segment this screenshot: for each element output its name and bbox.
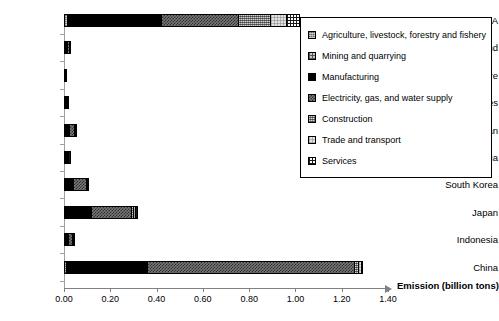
bar-segment-services <box>135 206 138 219</box>
x-tick <box>110 288 111 292</box>
x-tick-label: 0.00 <box>44 294 84 304</box>
legend: Agriculture, livestock, forestry and fis… <box>300 17 492 178</box>
x-tick-label: 0.60 <box>183 294 223 304</box>
x-tick-label: 0.80 <box>229 294 269 304</box>
x-tick-label: 1.40 <box>368 294 408 304</box>
legend-item-construction[interactable]: Construction <box>308 112 373 126</box>
x-tick-label: 1.00 <box>275 294 315 304</box>
bar-segment-manufacturing <box>68 14 162 27</box>
legend-label: Trade and transport <box>322 135 401 145</box>
bar-segment-electricity <box>65 69 67 82</box>
legend-label: Electricity, gas, and water supply <box>322 93 452 103</box>
legend-swatch-mining-icon <box>308 52 316 60</box>
legend-label: Services <box>322 156 357 166</box>
bar-segment-services <box>69 41 71 54</box>
bar-segment-electricity <box>73 178 86 191</box>
bar-segment-services <box>286 14 300 27</box>
legend-swatch-agriculture-icon <box>308 31 316 39</box>
bar-segment-manufacturing <box>65 178 73 191</box>
legend-swatch-trade-icon <box>308 136 316 144</box>
bar-segment-electricity <box>161 14 237 27</box>
x-tick <box>342 288 343 292</box>
bar-segment-services <box>73 233 75 246</box>
legend-item-trade[interactable]: Trade and transport <box>308 133 401 147</box>
x-tick-label: 1.20 <box>322 294 362 304</box>
legend-item-services[interactable]: Services <box>308 154 357 168</box>
legend-item-agriculture[interactable]: Agriculture, livestock, forestry and fis… <box>308 28 486 42</box>
x-tick <box>249 288 250 292</box>
bar-segment-services <box>87 178 89 191</box>
category-label-china: China <box>440 262 498 273</box>
x-tick <box>388 288 389 292</box>
legend-swatch-electricity-icon <box>308 94 316 102</box>
bar-segment-services <box>68 151 70 164</box>
category-label-indonesia: Indonesia <box>440 234 498 245</box>
x-tick <box>295 288 296 292</box>
bar-segment-trade <box>270 14 286 27</box>
legend-item-mining[interactable]: Mining and quarrying <box>308 49 406 63</box>
bar-segment-manufacturing <box>67 261 147 274</box>
x-axis-title: Emission (billion tons) <box>397 280 499 291</box>
bar-segment-construction <box>238 14 270 27</box>
category-label-japan: Japan <box>440 207 498 218</box>
x-tick-label: 0.20 <box>90 294 130 304</box>
legend-label: Manufacturing <box>322 72 379 82</box>
bar-segment-services <box>361 261 363 274</box>
x-tick <box>157 288 158 292</box>
legend-swatch-construction-icon <box>308 115 316 123</box>
bar-segment-services <box>75 124 77 137</box>
legend-swatch-services-icon <box>308 157 316 165</box>
legend-item-manufacturing[interactable]: Manufacturing <box>308 70 379 84</box>
legend-label: Agriculture, livestock, forestry and fis… <box>322 30 486 40</box>
category-label-south-korea: South Korea <box>440 179 498 190</box>
bar-segment-electricity <box>147 261 354 274</box>
legend-swatch-manufacturing-icon <box>308 73 316 81</box>
x-tick <box>203 288 204 292</box>
legend-label: Mining and quarrying <box>322 51 406 61</box>
bar-segment-electricity <box>91 206 130 219</box>
legend-label: Construction <box>322 114 373 124</box>
legend-item-electricity[interactable]: Electricity, gas, and water supply <box>308 91 452 105</box>
x-tick <box>64 288 65 292</box>
x-tick-label: 0.40 <box>137 294 177 304</box>
bar-segment-manufacturing <box>65 206 91 219</box>
x-axis-line <box>64 288 386 289</box>
bar-segment-services <box>67 96 69 109</box>
